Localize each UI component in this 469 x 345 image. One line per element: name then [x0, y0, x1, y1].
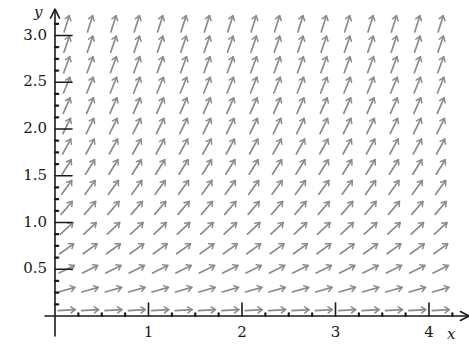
y-tick-label: 2.5	[0, 72, 47, 90]
field-arrow	[109, 160, 118, 174]
field-arrow	[415, 36, 422, 52]
field-arrow	[204, 57, 211, 73]
field-arrow	[133, 98, 141, 114]
field-arrow	[342, 201, 353, 214]
field-arrow	[227, 118, 235, 133]
arrow-shaft	[272, 201, 283, 214]
arrow-shaft	[362, 310, 379, 311]
field-arrow	[110, 98, 118, 114]
field-arrow	[110, 118, 118, 133]
field-arrow	[153, 265, 168, 273]
arrow-shaft	[364, 223, 376, 235]
arrow-shaft	[342, 201, 353, 214]
field-arrow	[390, 98, 398, 114]
field-arrow	[245, 307, 262, 313]
field-arrow	[250, 139, 259, 154]
field-arrow	[438, 77, 446, 93]
field-arrow	[386, 286, 402, 292]
field-arrow	[315, 307, 332, 313]
field-arrow	[63, 139, 72, 154]
field-arrow	[251, 57, 258, 73]
field-arrow	[131, 201, 142, 214]
field-arrow	[180, 77, 188, 93]
field-arrow	[110, 57, 117, 73]
field-arrow	[175, 286, 191, 292]
field-arrow	[342, 181, 352, 195]
field-arrow	[155, 181, 165, 195]
x-tick-label: 4	[414, 323, 444, 341]
field-arrow	[391, 16, 398, 32]
field-arrow	[157, 36, 164, 52]
field-arrow	[223, 265, 238, 273]
arrow-shaft	[292, 310, 309, 311]
arrow-shaft	[388, 201, 399, 214]
field-arrow	[85, 201, 96, 214]
field-arrow	[362, 307, 379, 313]
x-tick-label: 3	[321, 323, 351, 341]
field-arrow	[364, 223, 376, 235]
field-arrow	[105, 307, 122, 313]
arrow-shaft	[341, 223, 353, 235]
field-arrow	[274, 77, 282, 93]
field-arrow	[224, 223, 236, 235]
field-arrow	[413, 160, 422, 174]
field-arrow	[129, 286, 145, 292]
y-tick-label: 2.0	[0, 119, 47, 137]
field-arrow	[344, 57, 351, 73]
y-tick-label: 0.5	[0, 259, 47, 277]
field-arrow	[109, 139, 118, 154]
field-arrow	[343, 139, 352, 154]
field-arrow	[111, 16, 118, 32]
field-arrow	[62, 160, 71, 174]
field-arrow	[320, 139, 329, 154]
field-arrow	[227, 98, 235, 114]
field-arrow	[296, 160, 305, 174]
field-arrow	[61, 201, 72, 214]
field-arrow	[272, 181, 282, 195]
field-arrow	[249, 160, 258, 174]
slope-field-figure: x y 0.51.01.52.02.53.0 1234	[0, 0, 469, 345]
field-arrow	[318, 201, 329, 214]
arrow-shaft	[84, 223, 96, 235]
field-arrow	[437, 98, 445, 114]
y-axis-label: y	[34, 3, 42, 21]
field-arrow	[391, 77, 399, 93]
field-arrow	[157, 77, 165, 93]
field-arrow	[433, 286, 449, 292]
arrow-shaft	[105, 310, 122, 311]
field-arrow	[201, 223, 213, 235]
field-arrow	[387, 244, 401, 254]
field-arrow	[270, 244, 284, 254]
field-arrow	[414, 118, 422, 133]
arrow-shaft	[155, 201, 166, 214]
field-arrow	[292, 286, 308, 292]
field-arrow	[391, 36, 398, 52]
field-arrow	[345, 16, 352, 32]
arrow-shaft	[201, 223, 213, 235]
field-arrow	[296, 139, 305, 154]
arrow-shaft	[225, 201, 236, 214]
field-arrow	[63, 98, 71, 114]
arrow-shaft	[222, 310, 239, 311]
field-arrow	[316, 265, 331, 273]
field-arrow	[225, 181, 235, 195]
field-arrow	[87, 16, 94, 32]
field-arrow	[202, 160, 211, 174]
field-arrow	[60, 244, 74, 254]
arrow-shaft	[107, 223, 119, 235]
field-arrow	[343, 118, 351, 133]
field-arrow	[273, 118, 281, 133]
field-arrow	[297, 77, 305, 93]
field-arrow	[251, 77, 259, 93]
field-arrow	[134, 77, 142, 93]
field-arrow	[435, 201, 446, 214]
arrow-shaft	[58, 310, 75, 311]
arrow-shaft	[271, 223, 283, 235]
field-arrow	[411, 223, 423, 235]
field-arrow	[152, 286, 168, 292]
field-arrow	[273, 139, 282, 154]
field-arrow	[366, 181, 376, 195]
arrow-shaft	[318, 223, 330, 235]
field-arrow	[82, 286, 98, 292]
field-arrow	[321, 57, 328, 73]
